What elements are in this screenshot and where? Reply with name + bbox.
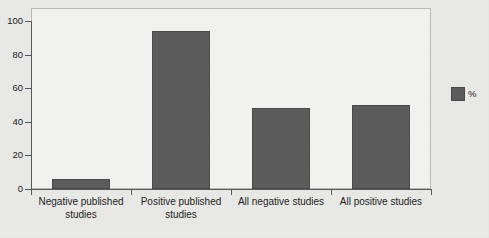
x-axis-tick [331, 189, 332, 195]
x-axis-category-label: Positive published studies [131, 196, 231, 221]
bar-series [31, 21, 431, 189]
y-axis-tick-label: 100 [0, 16, 23, 26]
chart-legend: % [451, 87, 476, 101]
x-axis-category-label: All positive studies [331, 196, 431, 209]
bar [152, 31, 210, 189]
x-axis-category-label: Negative published studies [31, 196, 131, 221]
y-axis-tick-label: 0 [0, 184, 23, 194]
x-axis-tick [431, 189, 432, 195]
x-axis-tick [31, 189, 32, 195]
y-axis-tick-label: 20 [0, 150, 23, 160]
legend-swatch-icon [451, 87, 465, 101]
bar [352, 105, 410, 189]
y-axis-tick-label: 60 [0, 83, 23, 93]
bar [52, 179, 110, 189]
x-axis-category-labels: Negative published studiesPositive publi… [31, 196, 431, 230]
legend-label: % [468, 89, 476, 99]
x-axis-tick [131, 189, 132, 195]
bar [252, 108, 310, 189]
x-axis-category-label: All negative studies [231, 196, 331, 209]
y-axis-tick-label: 80 [0, 50, 23, 60]
scanned-page: 020406080100 Negative published studiesP… [0, 0, 489, 238]
y-axis-tick-label: 40 [0, 117, 23, 127]
y-axis-tick-labels: 020406080100 [0, 0, 23, 238]
x-axis-tick [231, 189, 232, 195]
